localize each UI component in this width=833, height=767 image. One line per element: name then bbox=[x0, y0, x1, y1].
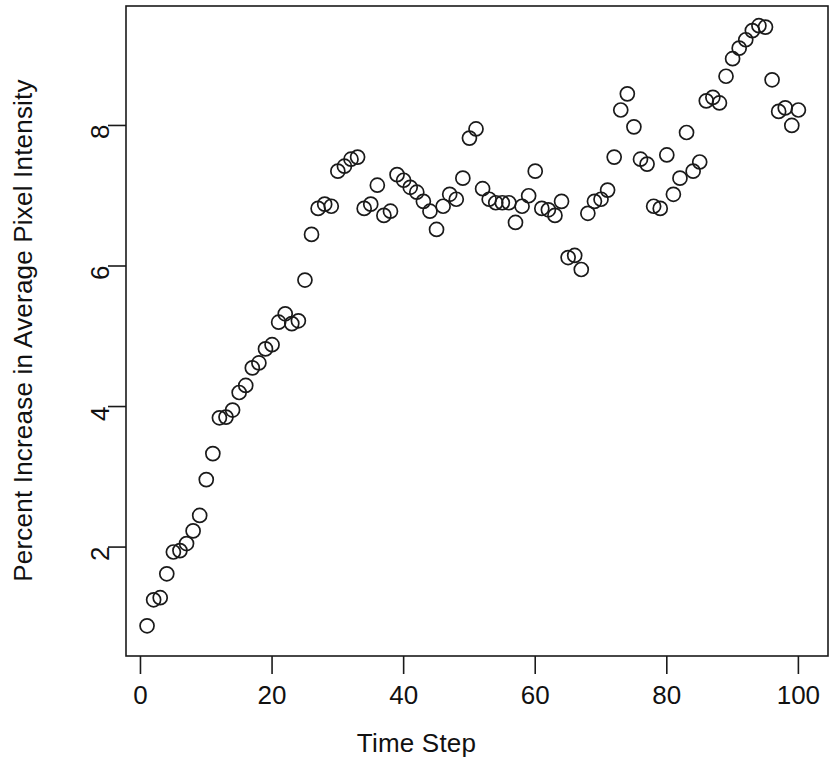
data-point-marker bbox=[140, 619, 154, 633]
data-point-marker bbox=[791, 103, 805, 117]
data-point-marker bbox=[199, 473, 213, 487]
x-axis-tick-label: 40 bbox=[364, 680, 444, 711]
data-point-marker bbox=[508, 215, 522, 229]
x-axis-title: Time Step bbox=[0, 728, 833, 759]
data-point-group bbox=[140, 19, 805, 633]
plot-frame bbox=[126, 6, 828, 656]
y-axis-title: Percent Increase in Average Pixel Intens… bbox=[8, 79, 39, 581]
data-point-marker bbox=[186, 524, 200, 538]
plot-canvas bbox=[0, 0, 833, 767]
data-point-marker bbox=[456, 171, 470, 185]
x-axis-tick-label: 20 bbox=[232, 680, 312, 711]
data-point-marker bbox=[430, 222, 444, 236]
data-point-marker bbox=[423, 204, 437, 218]
data-point-marker bbox=[726, 52, 740, 66]
data-point-marker bbox=[620, 87, 634, 101]
scatter-plot-figure: Percent Increase in Average Pixel Intens… bbox=[0, 0, 833, 767]
data-point-marker bbox=[515, 199, 529, 213]
y-axis-ticks bbox=[108, 125, 126, 547]
data-point-marker bbox=[206, 447, 220, 461]
data-point-marker bbox=[160, 567, 174, 581]
data-point-marker bbox=[627, 120, 641, 134]
data-point-marker bbox=[719, 69, 733, 83]
data-point-marker bbox=[607, 150, 621, 164]
data-point-marker bbox=[614, 103, 628, 117]
y-axis-tick-label: 8 bbox=[85, 125, 116, 165]
data-point-marker bbox=[785, 118, 799, 132]
data-point-marker bbox=[660, 148, 674, 162]
data-point-marker bbox=[555, 194, 569, 208]
data-point-marker bbox=[574, 263, 588, 277]
data-point-marker bbox=[528, 164, 542, 178]
x-axis-ticks bbox=[140, 656, 798, 674]
data-point-marker bbox=[522, 189, 536, 203]
x-axis-tick-label: 100 bbox=[758, 680, 833, 711]
x-axis-tick-label: 80 bbox=[627, 680, 707, 711]
y-axis-tick-label: 4 bbox=[85, 406, 116, 446]
data-point-marker bbox=[305, 227, 319, 241]
y-axis-title-container: Percent Increase in Average Pixel Intens… bbox=[0, 0, 46, 660]
data-point-marker bbox=[370, 178, 384, 192]
x-axis-tick-label: 60 bbox=[495, 680, 575, 711]
y-axis-tick-label: 6 bbox=[85, 266, 116, 306]
data-point-marker bbox=[193, 508, 207, 522]
data-point-marker bbox=[476, 182, 490, 196]
data-point-marker bbox=[666, 187, 680, 201]
plot-border bbox=[126, 6, 828, 656]
data-point-marker bbox=[298, 273, 312, 287]
data-point-marker bbox=[680, 125, 694, 139]
data-point-marker bbox=[765, 73, 779, 87]
y-axis-tick-label: 2 bbox=[85, 547, 116, 587]
data-point-marker bbox=[673, 171, 687, 185]
x-axis-tick-label: 0 bbox=[100, 680, 180, 711]
